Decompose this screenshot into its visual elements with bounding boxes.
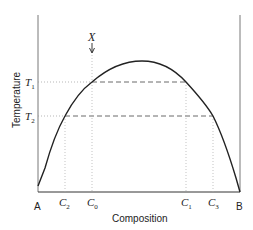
endpoint-b: B bbox=[236, 201, 243, 212]
t1-label: T1 bbox=[25, 76, 35, 91]
solvus-curve bbox=[38, 61, 240, 192]
c3-label: C3 bbox=[208, 196, 219, 211]
c0-label: C0 bbox=[87, 196, 98, 211]
x-axis-label: Composition bbox=[112, 213, 168, 224]
x-marker-label: X bbox=[87, 30, 96, 44]
endpoint-a: A bbox=[34, 201, 41, 212]
c1-label: C1 bbox=[181, 196, 192, 211]
phase-diagram: X T1 T2 Temperature A B C2 C0 C1 C3 Comp… bbox=[0, 0, 253, 230]
y-axis-label: Temperature bbox=[11, 71, 22, 128]
t2-label: T2 bbox=[25, 110, 35, 125]
c2-label: C2 bbox=[59, 196, 70, 211]
